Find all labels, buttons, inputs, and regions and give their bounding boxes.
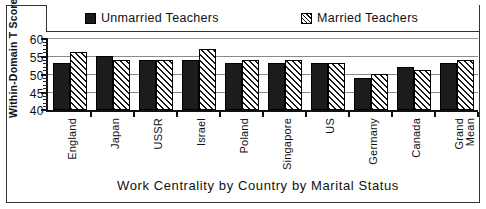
y-major-tick-60 — [41, 38, 48, 40]
bar-group — [353, 74, 389, 110]
bar-group — [138, 60, 174, 110]
y-axis-title: Within-Domain T Scores — [7, 0, 19, 118]
x-tick-label: Israel — [195, 118, 207, 146]
bar — [354, 78, 371, 110]
bar-group — [52, 52, 88, 110]
bar-group — [267, 60, 303, 110]
solid-square-icon — [85, 13, 96, 24]
y-major-tick-45 — [41, 92, 48, 94]
legend-item-married: Married Teachers — [301, 11, 418, 25]
y-major-tick-50 — [41, 74, 48, 76]
bar — [328, 63, 345, 110]
gridline-60 — [48, 38, 478, 39]
x-axis-tick — [133, 112, 135, 117]
legend-item-unmarried: Unmarried Teachers — [85, 11, 219, 25]
bar — [139, 60, 156, 110]
x-axis-tick — [262, 112, 264, 117]
y-tick-label-55: 55 — [30, 51, 44, 65]
x-axis-tick — [391, 112, 393, 117]
bar — [397, 67, 414, 110]
x-axis-tick — [305, 112, 307, 117]
y-major-tick-55 — [41, 56, 48, 58]
x-axis-tick — [176, 112, 178, 117]
x-axis-tick — [90, 112, 92, 117]
bar — [113, 60, 130, 110]
bar — [440, 63, 457, 110]
x-axis-tick — [348, 112, 350, 117]
bar — [156, 60, 173, 110]
y-tick-label-40: 40 — [30, 104, 44, 118]
x-axis-tick — [219, 112, 221, 117]
bar — [182, 60, 199, 110]
bar-group — [310, 63, 346, 110]
bar — [199, 49, 216, 110]
x-tick-label: England — [66, 118, 78, 160]
bar — [70, 52, 87, 110]
chart-figure: Unmarried Teachers Married Teachers With… — [0, 0, 486, 209]
y-tick-label-50: 50 — [30, 69, 44, 83]
x-axis-tick — [434, 112, 436, 117]
x-tick-label: Poland — [238, 118, 250, 153]
bar-group — [396, 67, 432, 110]
x-tick-label: Grand — [453, 118, 465, 150]
bar — [457, 60, 474, 110]
bar — [53, 63, 70, 110]
x-tick-label: Mean — [464, 118, 476, 146]
bar — [268, 63, 285, 110]
bar — [242, 60, 259, 110]
x-tick-label: USSR — [152, 118, 164, 149]
x-tick-label: Japan — [109, 118, 121, 149]
x-tick-label: Singapore — [281, 118, 293, 170]
hatched-square-icon — [301, 13, 312, 24]
bar — [414, 70, 431, 110]
y-tick-label-45: 45 — [30, 87, 44, 101]
legend-label-unmarried: Unmarried Teachers — [101, 11, 219, 25]
bar — [225, 63, 242, 110]
legend-label-married: Married Teachers — [317, 11, 418, 25]
bar-group — [439, 60, 475, 110]
x-tick-label: US — [324, 118, 336, 134]
bar — [96, 56, 113, 110]
bar-group — [95, 56, 131, 110]
x-tick-label: Canada — [410, 118, 422, 158]
bar — [285, 60, 302, 110]
x-tick-label: Germany — [367, 118, 379, 165]
plot-area — [48, 38, 478, 110]
x-axis-tick — [477, 112, 479, 117]
y-tick-label-60: 60 — [30, 33, 44, 47]
x-axis-title: Work Centrality by Country by Marital St… — [48, 178, 468, 193]
bar-group — [181, 49, 217, 110]
bar — [371, 74, 388, 110]
chart-legend: Unmarried Teachers Married Teachers — [46, 5, 480, 32]
bar — [311, 63, 328, 110]
bar-group — [224, 60, 260, 110]
